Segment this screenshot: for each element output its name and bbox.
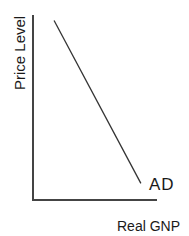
- chart: AD Real GNP Price Level: [0, 0, 189, 236]
- y-axis-label: Price Level: [11, 16, 28, 90]
- series-label-ad: AD: [149, 175, 175, 194]
- series-layer: [54, 21, 141, 184]
- series-line-ad: [54, 21, 141, 184]
- x-axis-label: Real GNP: [117, 218, 180, 234]
